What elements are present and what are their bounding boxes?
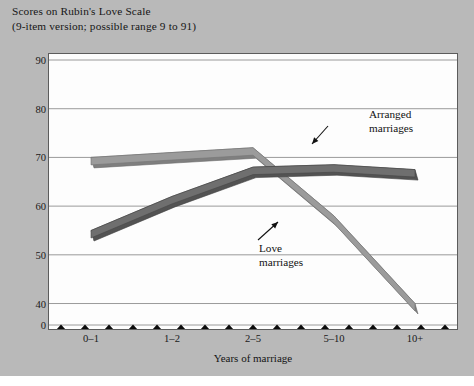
series-arranged-marriages xyxy=(91,165,418,241)
y-tick-60: 60 xyxy=(2,201,46,212)
plot-svg xyxy=(49,54,457,329)
x-axis: 0–11–22–55–1010+ xyxy=(48,333,458,351)
arrow-love-marriages xyxy=(258,222,278,240)
x-tick-1: 1–2 xyxy=(164,333,180,344)
y-axis: 9080706050400 xyxy=(0,53,46,330)
y-tick-40: 40 xyxy=(2,298,46,309)
y-tick-50: 50 xyxy=(2,249,46,260)
x-axis-title: Years of marriage xyxy=(48,352,458,364)
annotation-arranged-marriages: Arranged marriages xyxy=(369,108,413,135)
x-tick-3: 5–10 xyxy=(323,333,344,344)
axis-break-zigzag xyxy=(49,327,457,330)
annotation-love-line-1: Love xyxy=(259,242,303,256)
arrow-arranged-marriages xyxy=(312,126,328,144)
annotation-love-marriages: Love marriages xyxy=(259,242,303,269)
chart-title-line-2: (9-item version; possible range 9 to 91) xyxy=(12,19,312,34)
x-tick-4: 10+ xyxy=(407,333,424,344)
annotation-arranged-line-1: Arranged xyxy=(369,108,413,122)
y-tick-0: 0 xyxy=(2,320,46,331)
annotation-arranged-line-2: marriages xyxy=(369,122,413,136)
chart-figure: Scores on Rubin's Love Scale (9-item ver… xyxy=(0,0,474,376)
x-tick-0: 0–1 xyxy=(83,333,99,344)
series-ribbon-side xyxy=(91,165,418,241)
annotation-love-line-2: marriages xyxy=(259,256,303,270)
figure-page: Scores on Rubin's Love Scale (9-item ver… xyxy=(0,0,474,386)
chart-title: Scores on Rubin's Love Scale (9-item ver… xyxy=(12,4,312,33)
y-tick-80: 80 xyxy=(2,103,46,114)
plot-area xyxy=(48,53,458,330)
chart-title-line-1: Scores on Rubin's Love Scale xyxy=(12,4,312,19)
y-tick-90: 90 xyxy=(2,55,46,66)
x-tick-2: 2–5 xyxy=(245,333,261,344)
y-tick-70: 70 xyxy=(2,152,46,163)
